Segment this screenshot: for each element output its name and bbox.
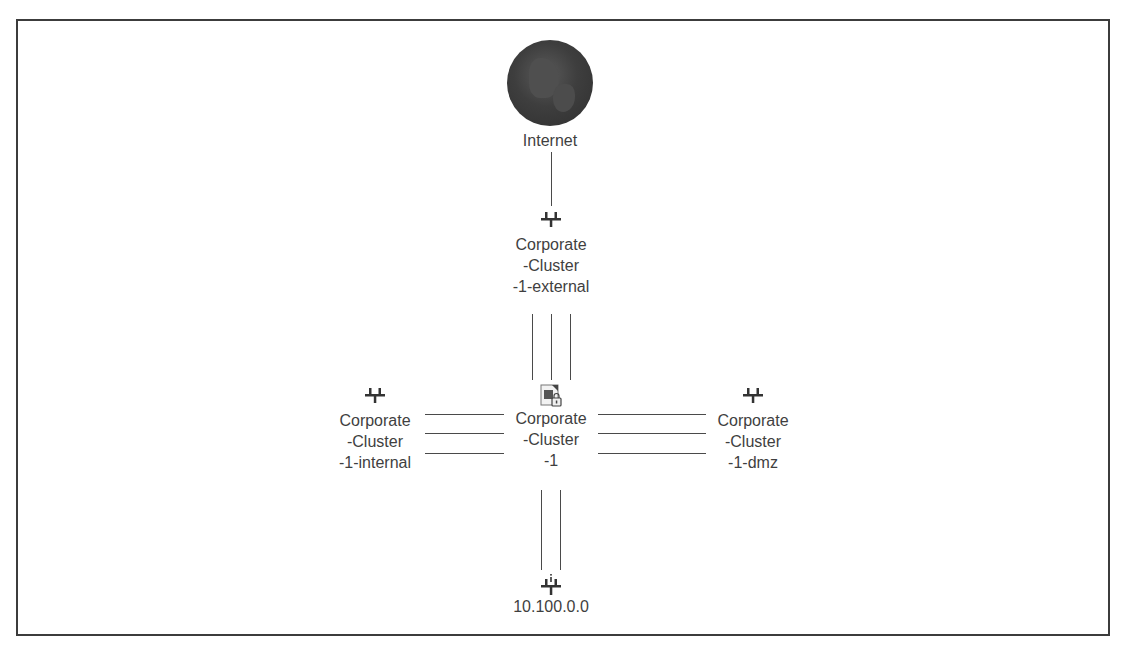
edge-cluster-subnet [541, 490, 542, 570]
edge-cluster-dmz [598, 414, 706, 415]
node-label: Internet [500, 130, 600, 151]
edge-internal-cluster [425, 453, 504, 454]
edge-external-cluster [570, 314, 571, 380]
node-dmz[interactable]: Corporate -Cluster -1-dmz [698, 386, 808, 473]
edge-cluster-dmz [598, 433, 706, 434]
edge-internal-cluster [425, 414, 504, 415]
edge-internet-external [551, 152, 552, 206]
node-cluster[interactable]: Corporate -Cluster -1 [500, 384, 602, 471]
node-label: Corporate -Cluster -1-external [496, 234, 606, 297]
firewall-cluster-icon [539, 384, 563, 408]
node-internal[interactable]: Corporate -Cluster -1-internal [320, 386, 430, 473]
globe-icon [507, 40, 593, 126]
edge-cluster-subnet [560, 490, 561, 570]
network-icon [742, 386, 764, 404]
node-subnet[interactable]: 10.100.0.0 [496, 574, 606, 617]
network-info-icon [540, 574, 562, 596]
node-internet[interactable]: Internet [500, 40, 600, 151]
node-label: Corporate -Cluster -1 [500, 408, 602, 471]
network-icon [364, 386, 386, 404]
node-external[interactable]: Corporate -Cluster -1-external [496, 210, 606, 297]
edge-external-cluster [551, 314, 552, 380]
edge-internal-cluster [425, 433, 504, 434]
node-label: Corporate -Cluster -1-dmz [698, 410, 808, 473]
network-icon [540, 210, 562, 228]
node-label: 10.100.0.0 [496, 596, 606, 617]
edge-external-cluster [532, 314, 533, 380]
edge-cluster-dmz [598, 453, 706, 454]
node-label: Corporate -Cluster -1-internal [320, 410, 430, 473]
